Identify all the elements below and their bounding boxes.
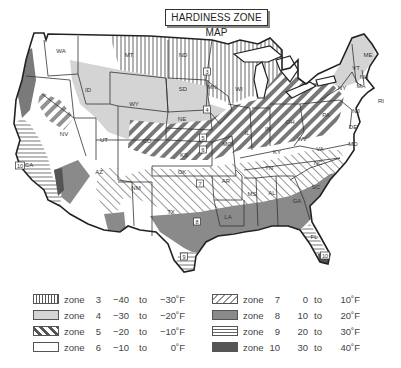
zone-10-swatch (212, 342, 238, 352)
state-label-me: ME (364, 52, 373, 58)
state-label-ny: NY (338, 85, 346, 91)
state-label-mo: MO (222, 141, 232, 147)
zone-7-swatch (212, 294, 238, 304)
state-label-il: IL (244, 130, 250, 136)
state-label-tn: TN (265, 165, 273, 171)
state-label-tx: TX (167, 209, 175, 215)
state-label-oh: OH (286, 119, 295, 125)
state-label-ca: CA (25, 162, 33, 168)
zone-4-swatch (33, 310, 59, 320)
state-label-id: ID (85, 87, 92, 93)
svg-text:3: 3 (205, 69, 208, 75)
zone-9-swatch (212, 326, 238, 336)
state-label-wa: WA (56, 48, 65, 54)
zone-marker-3: 3 (204, 68, 211, 75)
state-label-ks: KS (180, 152, 188, 158)
state-label-wi: WI (235, 86, 243, 92)
state-label-sc: SC (312, 184, 321, 190)
state-label-de: DE (349, 124, 357, 130)
zone-marker-10: 10 (16, 162, 25, 169)
state-label-nm: NM (131, 185, 140, 191)
state-label-ky: KY (273, 149, 281, 155)
state-label-pa: PA (322, 112, 330, 118)
state-label-md: MD (348, 141, 358, 147)
state-label-la: LA (224, 214, 231, 220)
state-label-az: AZ (95, 169, 103, 175)
zone-marker-6: 6 (200, 146, 207, 153)
state-label-ri: RI (378, 98, 384, 104)
state-label-mn: MN (207, 84, 216, 90)
state-label-nv: NV (60, 131, 68, 137)
state-label-ms: MS (248, 191, 257, 197)
svg-text:8: 8 (195, 219, 198, 225)
svg-text:7: 7 (198, 181, 201, 187)
state-label-nc: NC (314, 160, 323, 166)
state-label-wy: WY (129, 101, 139, 107)
us-hardiness-map: WAIDMTNDSDMNWIWYNENVUTCOKSMOCAAZNMOKARTX… (0, 0, 401, 290)
state-label-nh: NH (360, 74, 369, 80)
state-label-ut: UT (100, 137, 108, 143)
state-label-co: CO (143, 138, 152, 144)
svg-text:10: 10 (17, 163, 23, 169)
state-label-wv: WV (297, 136, 307, 142)
svg-text:9: 9 (182, 254, 185, 260)
state-label-in: IN (265, 126, 271, 132)
svg-text:5: 5 (201, 135, 204, 141)
zone-marker-4: 4 (204, 106, 211, 113)
state-label-va: VA (316, 146, 324, 152)
state-label-nj: NJ (352, 108, 359, 114)
zone-marker-10: 10 (321, 252, 330, 259)
zone-marker-5: 5 (200, 134, 207, 141)
state-label-vt: VT (352, 65, 360, 71)
state-label-ma: MA (357, 83, 366, 89)
zone-6-swatch (33, 342, 59, 352)
zone-marker-7: 7 (197, 180, 204, 187)
state-label-mt: MT (125, 52, 134, 58)
svg-text:10: 10 (322, 253, 328, 259)
zone-marker-9: 9 (181, 253, 188, 260)
state-label-ga: GA (293, 198, 302, 204)
zone-5-swatch (33, 326, 59, 336)
state-label-sd: SD (179, 86, 188, 92)
state-label-nd: ND (179, 52, 188, 58)
state-label-al: AL (268, 190, 276, 196)
zone-marker-8: 8 (194, 218, 201, 225)
zone-8-swatch (212, 310, 238, 320)
svg-text:4: 4 (205, 107, 208, 113)
state-label-ne: NE (178, 116, 186, 122)
zone-3-swatch (33, 294, 59, 304)
state-label-fl: FL (310, 234, 318, 240)
state-label-ok: OK (178, 169, 187, 175)
svg-text:6: 6 (201, 147, 204, 153)
state-label-ar: AR (222, 178, 231, 184)
